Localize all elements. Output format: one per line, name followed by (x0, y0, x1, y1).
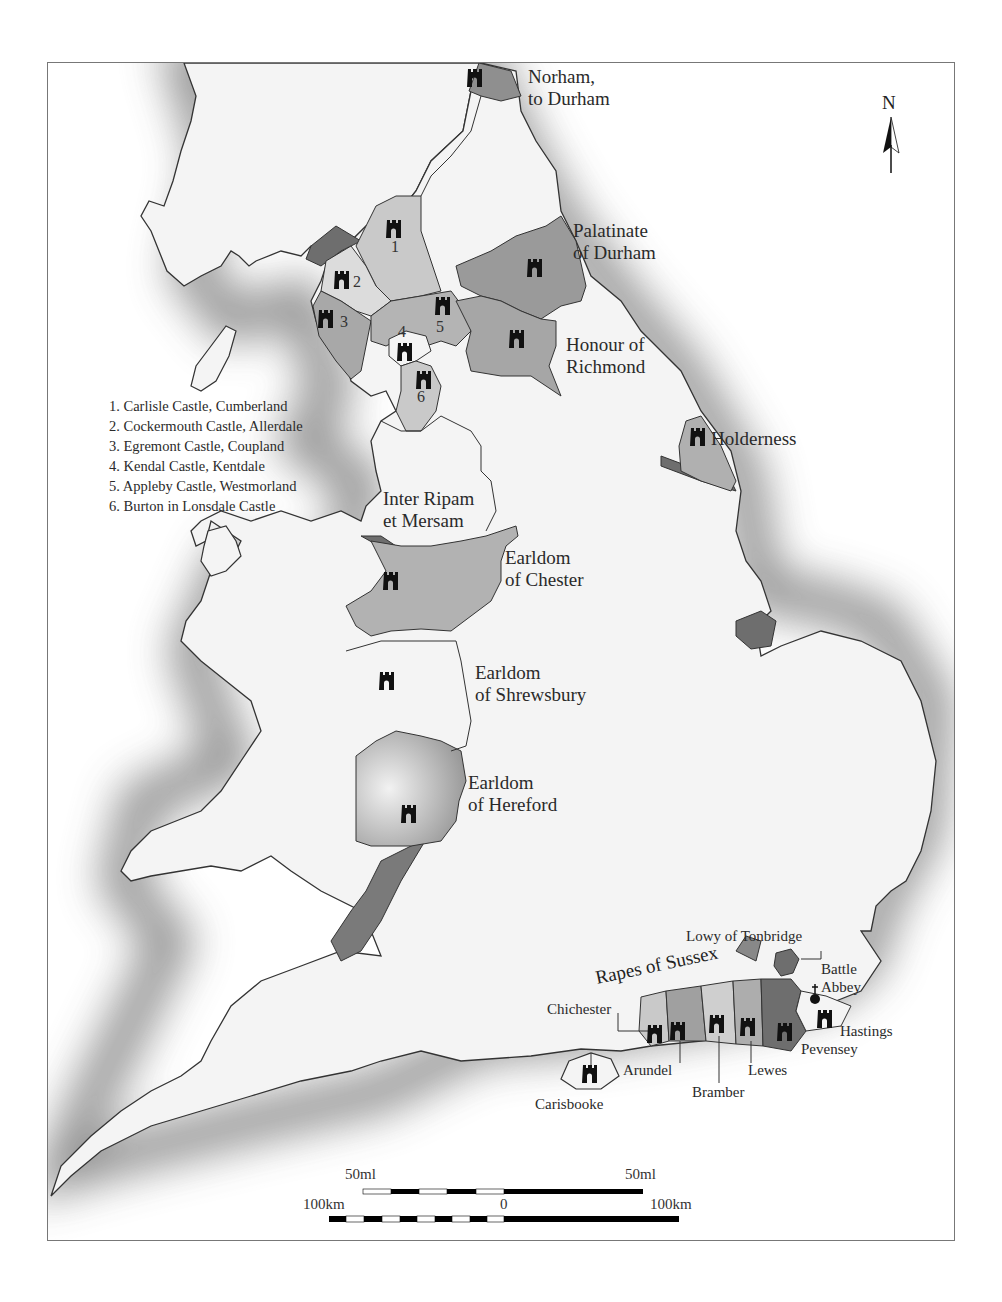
region-number-4: 4 (398, 323, 406, 341)
legend-item: 5. Appleby Castle, Westmorland (109, 476, 303, 496)
label-holderness: Holderness (711, 428, 796, 450)
map-frame (47, 62, 955, 1241)
label-battle-2: Abbey (821, 978, 861, 996)
castle-icon-bramber (709, 1015, 725, 1033)
label-norham-2: to Durham (528, 88, 610, 110)
legend-item: 4. Kendal Castle, Kentdale (109, 456, 303, 476)
castle-icon-egremont (318, 310, 334, 328)
isle-of-man (191, 326, 236, 391)
scale-km-zero: 0 (500, 1196, 508, 1213)
scale-bar-miles (363, 1189, 643, 1194)
map-canvas (48, 63, 955, 1241)
region-number-3: 3 (340, 313, 348, 331)
label-bramber: Bramber (692, 1083, 744, 1101)
castle-icon-chichester (647, 1025, 663, 1043)
region-number-2: 2 (353, 273, 361, 291)
castle-icon-cockermouth (334, 271, 350, 289)
castle-icon-lewes (740, 1018, 756, 1036)
label-lewes: Lewes (748, 1061, 787, 1079)
label-chichester: Chichester (547, 1000, 611, 1018)
region-number-1: 1 (391, 238, 399, 256)
castle-icon-shrewsbury (379, 672, 395, 690)
label-battle-1: Battle (821, 960, 857, 978)
legend-item: 3. Egremont Castle, Coupland (109, 436, 303, 456)
label-carisbrooke: Carisbooke (535, 1095, 603, 1113)
label-shrewsbury-1: Earldom (475, 662, 540, 684)
label-pevensey: Pevensey (801, 1040, 858, 1058)
scale-km-left: 100km (303, 1196, 345, 1213)
north-arrow-icon (876, 95, 906, 175)
region-hereford (356, 731, 466, 846)
label-ripam-1: Inter Ripam (383, 488, 474, 510)
castle-icon-holderness (690, 428, 706, 446)
legend-item: 6. Burton in Lonsdale Castle (109, 496, 303, 516)
label-chester-2: of Chester (505, 569, 584, 591)
label-norham-1: Norham, (528, 66, 595, 88)
label-hereford-1: Earldom (468, 772, 533, 794)
label-tonbridge: Lowy of Tonbridge (686, 927, 802, 945)
scale-bar-km (329, 1216, 679, 1222)
legend-item: 2. Cockermouth Castle, Allerdale (109, 416, 303, 436)
label-richmond-2: Richmond (566, 356, 645, 378)
castle-icon-hastings (817, 1010, 833, 1028)
label-richmond-1: Honour of (566, 334, 645, 356)
abbey-icon (808, 984, 822, 1006)
label-chester-1: Earldom (505, 547, 570, 569)
castle-icon-carisbrooke (582, 1065, 598, 1083)
label-durham-2: of Durham (573, 242, 656, 264)
castle-legend: 1. Carlisle Castle, Cumberland 2. Cocker… (109, 396, 303, 516)
region-number-5: 5 (436, 318, 444, 336)
label-ripam-2: et Mersam (383, 510, 464, 532)
legend-item: 1. Carlisle Castle, Cumberland (109, 396, 303, 416)
label-durham-1: Palatinate (573, 220, 648, 242)
castle-icon-pevensey (777, 1023, 793, 1041)
castle-icon-carlisle (386, 220, 402, 238)
label-arundel: Arundel (623, 1061, 672, 1079)
label-shrewsbury-2: of Shrewsbury (475, 684, 586, 706)
scale-miles-right: 50ml (625, 1166, 656, 1183)
castle-icon-richmond (509, 330, 525, 348)
castle-icon-kendal (397, 343, 413, 361)
castle-icon-hereford (401, 805, 417, 823)
region-number-6: 6 (417, 388, 425, 406)
label-hastings: Hastings (840, 1022, 893, 1040)
scale-miles-left: 50ml (345, 1166, 376, 1183)
castle-icon-burton (416, 371, 432, 389)
label-hereford-2: of Hereford (468, 794, 557, 816)
castle-icon-durham (527, 259, 543, 277)
castle-icon-arundel (670, 1022, 686, 1040)
rape-bramber (701, 981, 736, 1044)
scale-km-right: 100km (650, 1196, 692, 1213)
castle-icon-chester (383, 572, 399, 590)
castle-icon-norham (467, 69, 483, 87)
castle-icon-appleby (435, 297, 451, 315)
